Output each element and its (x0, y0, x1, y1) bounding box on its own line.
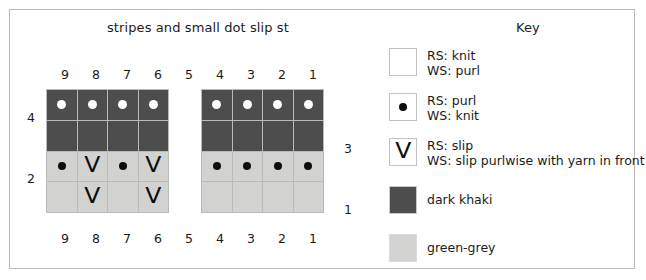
key-line-rs: RS: knit (427, 49, 480, 64)
chart-cell-r3-c7 (108, 121, 138, 151)
key-item-slip: V RS: slip WS: slip purlwise with yarn i… (389, 138, 645, 168)
column-label-top-8: 8 (87, 67, 105, 82)
column-label-top-2: 2 (273, 67, 291, 82)
chart-cell-r3-c8 (78, 121, 108, 151)
chart-cell-r4-c4 (202, 90, 232, 120)
chart-cell-r2-c2 (263, 152, 293, 182)
key-item-dark-khaki: dark khaki (389, 186, 492, 214)
row-label-3: 3 (339, 141, 357, 156)
chart-cell-r3-c6 (139, 121, 169, 151)
chart-cell-r3-c4 (202, 121, 232, 151)
key-line-colour: dark khaki (427, 193, 492, 208)
slip-stitch-v-icon: V (84, 186, 100, 207)
purl-dot-icon (57, 100, 66, 109)
purl-dot-icon (274, 162, 282, 170)
key-item-slip-text: RS: slip WS: slip purlwise with yarn in … (427, 138, 645, 168)
key-item-purl: RS: purl WS: knit (389, 93, 479, 123)
chart-cell-r3-c9 (47, 121, 77, 151)
key-line-rs: RS: purl (427, 94, 479, 109)
column-label-bottom-3: 3 (242, 231, 260, 246)
purl-dot-icon (304, 162, 312, 170)
purl-dot-icon (304, 100, 313, 109)
chart-cell-r1-c8: V (78, 182, 108, 212)
chart-cell-r2-c1 (294, 152, 324, 182)
row-label-1: 1 (339, 202, 357, 217)
slip-stitch-v-icon: V (395, 141, 411, 162)
chart-cell-r2-c4 (202, 152, 232, 182)
chart-cell-r1-c4 (202, 182, 232, 212)
chart-frame: stripes and small dot slip st 9 8 7 6 5 … (9, 9, 635, 269)
chart-cell-r4-c1 (294, 90, 324, 120)
key-line-ws: WS: slip purlwise with yarn in front (427, 154, 645, 169)
key-line-ws: WS: purl (427, 64, 480, 79)
chart-cell-r2-c6: V (139, 152, 169, 182)
chart-cell-r4-c7 (108, 90, 138, 120)
chart-cell-r1-c2 (263, 182, 293, 212)
purl-dot-icon (273, 100, 282, 109)
row-label-2: 2 (22, 171, 40, 186)
slip-stitch-v-icon: V (84, 155, 100, 176)
column-label-bottom-6: 6 (149, 231, 167, 246)
key-line-rs: RS: slip (427, 139, 645, 154)
purl-dot-icon (149, 100, 158, 109)
chart-cell-r4-c6 (139, 90, 169, 120)
purl-dot-icon (119, 162, 127, 170)
column-label-bottom-7: 7 (118, 231, 136, 246)
slip-stitch-swatch-icon: V (389, 138, 417, 166)
chart-block-left: V V V V (46, 89, 169, 213)
chart-block-right (201, 89, 324, 213)
dark-khaki-colour-swatch-icon (389, 186, 417, 214)
purl-dot-icon (58, 162, 66, 170)
chart-cell-r1-c1 (294, 182, 324, 212)
purl-dot-icon (399, 103, 407, 111)
key-line-ws: WS: knit (427, 109, 479, 124)
key-line-colour: green-grey (427, 241, 496, 256)
chart-cell-r2-c8: V (78, 152, 108, 182)
chart-title: stripes and small dot slip st (107, 20, 289, 35)
chart-cell-r3-c2 (263, 121, 293, 151)
row-label-4: 4 (22, 110, 40, 125)
column-label-top-1: 1 (304, 67, 322, 82)
key-item-green-grey-text: green-grey (427, 234, 496, 256)
column-label-top-3: 3 (242, 67, 260, 82)
key-item-knit: RS: knit WS: purl (389, 48, 480, 78)
column-label-top-7: 7 (118, 67, 136, 82)
column-label-top-6: 6 (149, 67, 167, 82)
blank-stitch-swatch-icon (389, 48, 417, 76)
column-label-top-4: 4 (211, 67, 229, 82)
chart-cell-r1-c6: V (139, 182, 169, 212)
chart-cell-r2-c7 (108, 152, 138, 182)
column-label-top-9: 9 (56, 67, 74, 82)
chart-cell-r4-c9 (47, 90, 77, 120)
column-label-bottom-9: 9 (56, 231, 74, 246)
column-label-bottom-4: 4 (211, 231, 229, 246)
chart-cell-r2-c9 (47, 152, 77, 182)
chart-cell-r3-c3 (233, 121, 263, 151)
purl-dot-icon (88, 100, 97, 109)
key-item-knit-text: RS: knit WS: purl (427, 48, 480, 78)
purl-dot-icon (212, 100, 221, 109)
stitch-chart: stripes and small dot slip st 9 8 7 6 5 … (10, 10, 380, 270)
column-label-bottom-8: 8 (87, 231, 105, 246)
chart-cell-r4-c3 (233, 90, 263, 120)
key-legend: Key RS: knit WS: purl RS: purl WS: knit … (380, 10, 636, 270)
slip-stitch-v-icon: V (145, 186, 161, 207)
chart-cell-r1-c9 (47, 182, 77, 212)
column-label-bottom-1: 1 (304, 231, 322, 246)
column-label-bottom-5: 5 (180, 231, 198, 246)
key-item-dark-khaki-text: dark khaki (427, 186, 492, 208)
purl-dot-icon (213, 162, 221, 170)
chart-cell-r3-c1 (294, 121, 324, 151)
purl-dot-icon (243, 100, 252, 109)
key-item-green-grey: green-grey (389, 234, 496, 262)
chart-cell-r4-c8 (78, 90, 108, 120)
purl-dot-icon (243, 162, 251, 170)
chart-cell-r1-c7 (108, 182, 138, 212)
column-label-top-5: 5 (180, 67, 198, 82)
column-label-bottom-2: 2 (273, 231, 291, 246)
green-grey-colour-swatch-icon (389, 234, 417, 262)
chart-cell-r1-c3 (233, 182, 263, 212)
key-item-purl-text: RS: purl WS: knit (427, 93, 479, 123)
purl-dot-icon (118, 100, 127, 109)
chart-cell-r4-c2 (263, 90, 293, 120)
